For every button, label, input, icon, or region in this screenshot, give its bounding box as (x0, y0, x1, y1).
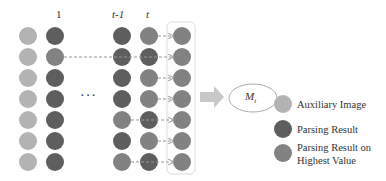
node-circle (173, 111, 191, 129)
node-circle (173, 132, 191, 150)
legend-parsing-label: Parsing Result (297, 123, 358, 136)
legend-dots (274, 95, 292, 162)
node-circle (140, 132, 158, 150)
node-circle (173, 48, 191, 66)
node-circle (46, 153, 64, 171)
column-label-1: 1 (56, 8, 62, 20)
column-label-t: t (146, 8, 149, 20)
node-circle (173, 69, 191, 87)
node-circle (173, 27, 191, 45)
node-circle (19, 48, 37, 66)
node-circle (173, 90, 191, 108)
node-circle (46, 132, 64, 150)
legend-auxiliary-label: Auxiliary Image (297, 98, 366, 111)
ellipsis: ··· (80, 88, 97, 104)
node-circle (46, 69, 64, 87)
node-circle (46, 90, 64, 108)
node-circle (46, 111, 64, 129)
legend-dot (274, 144, 292, 162)
node-circle (113, 132, 131, 150)
node-circle (113, 69, 131, 87)
node-circle (19, 111, 37, 129)
node-circle (19, 132, 37, 150)
node-circle (46, 48, 64, 66)
legend-dot (274, 120, 292, 138)
node-circle (113, 90, 131, 108)
node-circle (140, 69, 158, 87)
legend-dot (274, 95, 292, 113)
model-label: Mt (245, 90, 256, 105)
node-circle (140, 90, 158, 108)
node-circle (19, 27, 37, 45)
node-circle (113, 153, 131, 171)
node-circle (113, 27, 131, 45)
node-circle (140, 27, 158, 45)
node-circle (113, 111, 131, 129)
legend-highest-label: Parsing Result on (297, 141, 371, 154)
arrow-to-model-icon (200, 86, 224, 108)
node-circle (19, 90, 37, 108)
legend-highest-label-2: Highest Value (297, 154, 356, 167)
column-label-t-minus-1: t-1 (112, 8, 124, 20)
node-circle (173, 153, 191, 171)
node-circle (19, 69, 37, 87)
node-circle (19, 153, 37, 171)
node-circle (46, 27, 64, 45)
